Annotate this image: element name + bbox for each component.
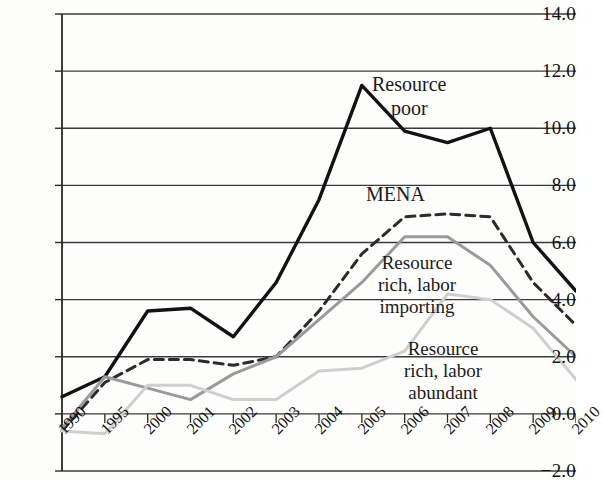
annotation-line: rich, labor <box>378 274 456 296</box>
y-axis-label: 2.0 <box>522 347 576 366</box>
y-axis-label: 8.0 <box>522 175 576 194</box>
gridlines <box>62 14 576 471</box>
annotation-resource-rich-labor-importing: Resource rich, labor importing <box>378 252 456 318</box>
y-axis-label: 12.0 <box>522 61 576 80</box>
axis-lines <box>55 14 62 471</box>
y-axis-label: 6.0 <box>522 233 576 252</box>
annotation-line: Resource <box>378 252 456 274</box>
series-line <box>62 85 576 396</box>
annotation-line: Resource <box>404 338 482 360</box>
annotation-line: abundant <box>404 382 482 404</box>
y-axis-label: 14.0 <box>522 4 576 23</box>
annotation-line: Resource <box>372 72 446 96</box>
annotation-line: poor <box>372 96 446 120</box>
annotation-resource-poor: Resource poor <box>372 72 446 120</box>
y-axis-label: −2.0 <box>522 461 576 480</box>
annotation-line: MENA <box>366 182 425 206</box>
annotation-mena: MENA <box>366 182 425 206</box>
y-axis-label: 10.0 <box>522 118 576 137</box>
series-line <box>62 237 576 428</box>
series-lines <box>62 85 576 433</box>
y-axis-label: 4.0 <box>522 290 576 309</box>
annotation-line: importing <box>378 296 456 318</box>
annotation-line: rich, labor <box>404 360 482 382</box>
annotation-resource-rich-labor-abundant: Resource rich, labor abundant <box>404 338 482 404</box>
